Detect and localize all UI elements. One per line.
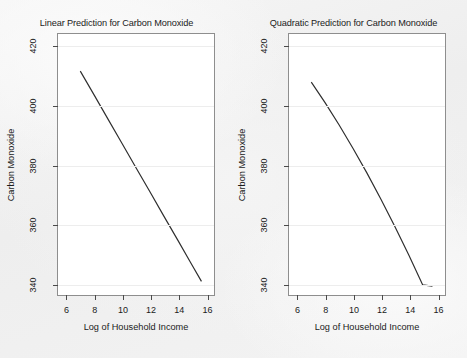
x-axis-tick-label: 10 — [344, 305, 364, 315]
x-axis-tick-label: 12 — [372, 305, 392, 315]
x-axis-tick — [382, 295, 383, 300]
y-gridline — [58, 285, 214, 286]
y-axis-tick — [53, 106, 58, 107]
x-axis-tick-label: 6 — [287, 305, 307, 315]
y-axis-tick-label: 420 — [26, 33, 40, 59]
panel-title-quadratic: Quadratic Prediction for Carbon Monoxide — [233, 18, 467, 28]
x-axis-tick — [123, 295, 124, 300]
y-gridline — [58, 225, 214, 226]
x-axis-tick-label: 8 — [85, 305, 105, 315]
y-axis-tick-label: 360 — [26, 212, 40, 238]
figure-container: Linear Prediction for Carbon Monoxide Ca… — [0, 0, 467, 358]
x-axis-tick — [439, 295, 440, 300]
x-axis-tick — [208, 295, 209, 300]
y-gridline — [289, 225, 445, 226]
y-axis-tick — [53, 166, 58, 167]
y-axis-tick — [53, 285, 58, 286]
x-axis-tick-label: 16 — [429, 305, 449, 315]
x-axis-tick — [151, 295, 152, 300]
panel-title-linear: Linear Prediction for Carbon Monoxide — [0, 18, 233, 28]
x-axis-tick-label: 6 — [56, 305, 76, 315]
y-axis-tick — [53, 46, 58, 47]
y-gridline — [289, 166, 445, 167]
x-axis-tick — [95, 295, 96, 300]
y-axis-tick — [284, 46, 289, 47]
y-axis-tick-label: 380 — [26, 153, 40, 179]
y-gridline — [58, 46, 214, 47]
y-gridline — [289, 285, 445, 286]
y-axis-tick-label: 400 — [257, 93, 271, 119]
x-axis-title-right: Log of Household Income — [288, 322, 446, 332]
plot-area-quadratic: 3403603804004206810121416 — [288, 33, 446, 296]
y-axis-tick — [53, 225, 58, 226]
chart-panel-quadratic: Quadratic Prediction for Carbon Monoxide… — [233, 0, 466, 358]
x-axis-tick — [326, 295, 327, 300]
linear-prediction-curve — [58, 34, 214, 295]
y-axis-tick-label: 380 — [257, 153, 271, 179]
y-axis-title-right-text: Carbon Monoxide — [237, 128, 247, 201]
x-axis-tick-label: 8 — [316, 305, 336, 315]
y-gridline — [58, 106, 214, 107]
y-axis-tick-label: 340 — [26, 272, 40, 298]
x-axis-tick — [66, 295, 67, 300]
x-axis-tick-label: 14 — [169, 305, 189, 315]
x-axis-tick — [297, 295, 298, 300]
x-axis-tick — [354, 295, 355, 300]
y-gridline — [289, 46, 445, 47]
y-axis-tick-label: 400 — [26, 93, 40, 119]
y-axis-title-right: Carbon Monoxide — [235, 33, 249, 296]
x-axis-tick-label: 12 — [141, 305, 161, 315]
plot-area-linear: 3403603804004206810121416 — [57, 33, 215, 296]
y-gridline — [289, 106, 445, 107]
y-axis-tick-label: 420 — [257, 33, 271, 59]
y-axis-tick-label: 340 — [257, 272, 271, 298]
y-axis-title-left: Carbon Monoxide — [4, 33, 18, 296]
y-axis-tick — [284, 285, 289, 286]
y-axis-tick-label: 360 — [257, 212, 271, 238]
quadratic-prediction-curve — [289, 34, 445, 295]
y-gridline — [58, 166, 214, 167]
x-axis-title-left: Log of Household Income — [57, 322, 215, 332]
x-axis-tick-label: 16 — [198, 305, 218, 315]
x-axis-tick — [410, 295, 411, 300]
chart-panel-linear: Linear Prediction for Carbon Monoxide Ca… — [0, 0, 233, 358]
x-axis-tick-label: 10 — [113, 305, 133, 315]
x-axis-tick — [179, 295, 180, 300]
y-axis-tick — [284, 225, 289, 226]
y-axis-tick — [284, 166, 289, 167]
y-axis-title-left-text: Carbon Monoxide — [6, 128, 16, 201]
y-axis-tick — [284, 106, 289, 107]
x-axis-tick-label: 14 — [400, 305, 420, 315]
